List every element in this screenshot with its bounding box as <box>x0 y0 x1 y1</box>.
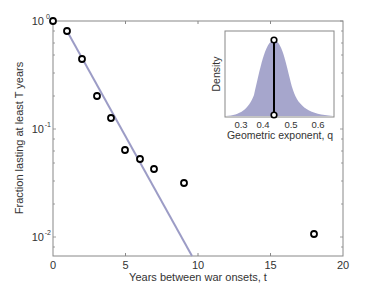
inset-x-axis-label: Geometric exponent, q <box>227 129 333 141</box>
y-tick-label: 10 <box>32 123 44 135</box>
mode-marker-bottom <box>271 112 277 118</box>
chart-figure: 0 5 10 15 20 10 0 10 -1 10 -2 Years betw… <box>0 0 365 294</box>
y-axis-label: Fraction lasting at least T years <box>13 61 25 214</box>
y-tick-exp: 0 <box>46 13 50 20</box>
inset-y-axis-label: Density <box>210 56 222 92</box>
x-tick-label: 20 <box>337 259 349 271</box>
x-tick-label: 15 <box>264 259 276 271</box>
y-tick-label: 10 <box>32 231 44 243</box>
mode-marker-top <box>271 37 277 43</box>
x-tick-label: 0 <box>50 259 56 271</box>
x-tick-label: 5 <box>122 259 128 271</box>
inset-chart: 0.3 0.4 0.5 0.6 Geometric exponent, q De… <box>210 31 334 141</box>
y-tick-exp: -1 <box>45 121 51 128</box>
x-axis-label: Years between war onsets, t <box>129 271 267 283</box>
y-tick-label: 10 <box>32 15 44 27</box>
y-tick-exp: -2 <box>45 229 51 236</box>
x-tick-label: 10 <box>192 259 204 271</box>
geometric-fit-line <box>67 31 192 256</box>
